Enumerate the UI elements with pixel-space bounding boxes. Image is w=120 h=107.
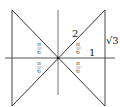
bowtie-diagram: 2 1 √3 π 6 π 6 π 6 π 6 xyxy=(0,0,120,107)
hypotenuse-label: 2 xyxy=(72,28,78,39)
svg-text:π: π xyxy=(37,40,41,47)
angle-label-upper-left: π 6 xyxy=(37,40,42,55)
svg-text:6: 6 xyxy=(37,48,41,55)
svg-text:π: π xyxy=(37,59,41,66)
svg-text:π: π xyxy=(76,40,80,47)
angle-label-lower-left: π 6 xyxy=(37,59,42,74)
svg-text:π: π xyxy=(76,59,80,66)
origin-point xyxy=(57,57,59,59)
svg-text:6: 6 xyxy=(76,48,80,55)
svg-text:6: 6 xyxy=(37,67,41,74)
adjacent-label: 1 xyxy=(89,47,95,58)
angle-label-upper-right: π 6 xyxy=(76,40,81,55)
angle-label-lower-right: π 6 xyxy=(76,59,81,74)
svg-text:6: 6 xyxy=(76,67,80,74)
opposite-label: √3 xyxy=(106,35,119,46)
